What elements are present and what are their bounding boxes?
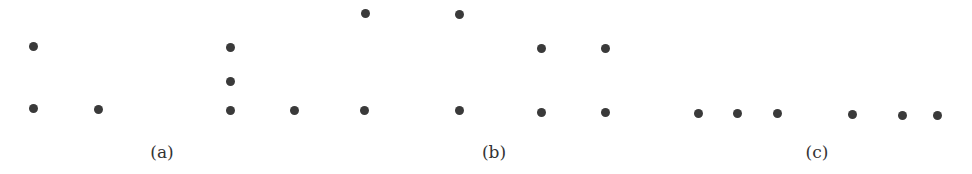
figure: (a) (b) (c): [0, 0, 972, 174]
point-dot: [898, 111, 907, 120]
point-dot: [733, 109, 742, 118]
point-dot: [94, 105, 103, 114]
point-dot: [601, 108, 610, 117]
point-dot: [226, 77, 235, 86]
point-dot: [290, 106, 299, 115]
point-dot: [29, 42, 38, 51]
point-dot: [601, 44, 610, 53]
point-dot: [226, 106, 235, 115]
point-dot: [361, 9, 370, 18]
point-dot: [694, 109, 703, 118]
point-dot: [848, 110, 857, 119]
point-dot: [455, 106, 464, 115]
caption-c: (c): [806, 142, 829, 162]
point-dot: [773, 109, 782, 118]
point-dot: [537, 44, 546, 53]
caption-b: (b): [482, 142, 506, 162]
point-dot: [537, 108, 546, 117]
point-dot: [455, 10, 464, 19]
point-dot: [29, 104, 38, 113]
caption-a: (a): [150, 142, 173, 162]
point-dot: [226, 43, 235, 52]
point-dot: [360, 106, 369, 115]
point-dot: [933, 111, 942, 120]
